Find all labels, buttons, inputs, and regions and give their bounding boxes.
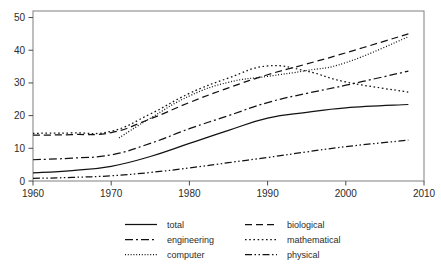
legend-label-biological: biological [287,220,325,230]
legend-label-computer: computer [167,250,205,260]
y-tick-label: 20 [14,110,26,121]
chart-background [0,0,441,272]
x-tick-label: 1980 [178,188,201,199]
x-tick-label: 1970 [100,188,123,199]
x-tick-label: 2010 [413,188,436,199]
line-chart-figure: 196019701980199020002010 01020304050 tot… [0,0,441,272]
x-tick-label: 2000 [335,188,358,199]
y-tick-label: 30 [14,77,26,88]
x-tick-label: 1990 [256,188,279,199]
y-tick-label: 10 [14,143,26,154]
y-tick-label: 50 [14,12,26,23]
y-tick-label: 40 [14,45,26,56]
legend-label-total: total [167,220,184,230]
legend-label-physical: physical [287,250,320,260]
legend-label-engineering: engineering [167,235,214,245]
y-tick-label: 0 [19,176,25,187]
legend-label-mathematical: mathematical [287,235,341,245]
x-tick-label: 1960 [22,188,45,199]
